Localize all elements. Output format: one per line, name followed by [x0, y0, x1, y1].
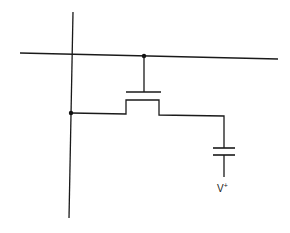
word-line [20, 53, 278, 59]
transistor-channel [71, 100, 224, 148]
dram-cell-diagram: V+ [0, 0, 290, 233]
bit-line-junction-dot [69, 111, 73, 115]
supply-label: V+ [217, 182, 228, 194]
